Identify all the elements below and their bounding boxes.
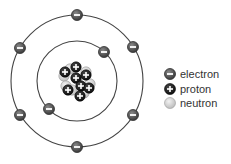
electron-icon [163, 67, 177, 81]
proton [75, 91, 85, 101]
electron-inner-2 [44, 104, 55, 115]
legend-label-neutron: neutron [180, 97, 217, 109]
proton [60, 67, 70, 77]
electron-outer-4 [72, 142, 83, 153]
electron-inner-1 [99, 47, 110, 58]
proton [81, 70, 91, 80]
proton [71, 62, 81, 72]
proton [63, 85, 73, 95]
proton-icon [163, 82, 177, 96]
electron-outer-2 [128, 42, 139, 53]
electron-outer-6 [15, 43, 26, 54]
legend-item-proton: proton [163, 82, 219, 97]
proton [84, 83, 94, 93]
electron-outer-3 [128, 110, 139, 121]
legend-label-proton: proton [180, 83, 211, 95]
nucleus [59, 62, 95, 101]
legend-item-neutron: neutron [163, 96, 219, 111]
neutron-icon [163, 96, 177, 110]
legend: electron proton neutron [163, 67, 219, 111]
legend-label-electron: electron [180, 68, 219, 80]
legend-item-electron: electron [163, 67, 219, 82]
electron-outer-1 [72, 10, 83, 21]
electron-outer-5 [15, 110, 26, 121]
